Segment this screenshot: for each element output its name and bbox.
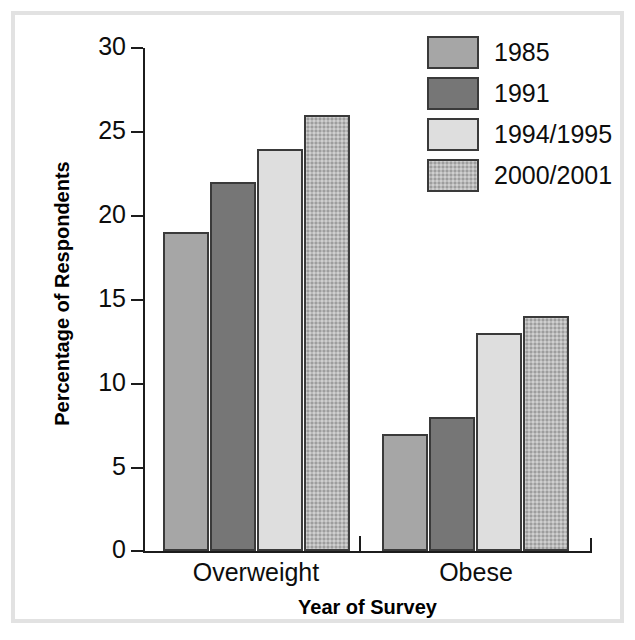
bar-obese-1985: [382, 434, 428, 551]
bar-obese-1994-1995: [476, 333, 522, 551]
bar-overweight-1985: [163, 232, 209, 551]
y-tick-15: [131, 299, 143, 301]
bar-obese-1991: [429, 417, 475, 551]
legend-swatch-1985: [427, 36, 479, 69]
legend-swatch-2000-2001: [427, 159, 479, 192]
x-axis-end-cap: [590, 538, 592, 553]
plot-area: 30 25 20 15 10 5 0 Percentage of Respond…: [0, 0, 635, 640]
legend-item-1994-1995: 1994/1995: [427, 115, 612, 153]
legend-label-1991: 1991: [494, 81, 550, 106]
y-axis-title: Percentage of Respondents: [51, 129, 74, 459]
x-axis-line: [143, 551, 592, 553]
bar-obese-2000-2001: [523, 316, 569, 551]
y-tick-30: [131, 47, 143, 49]
legend-item-1985: 1985: [427, 33, 612, 71]
x-group-label-overweight: Overweight: [156, 559, 356, 587]
figure-container: 30 25 20 15 10 5 0 Percentage of Respond…: [0, 0, 635, 640]
legend-label-2000-2001: 2000/2001: [494, 163, 612, 188]
y-axis-line: [143, 48, 145, 553]
y-tick-10: [131, 383, 143, 385]
legend-label-1994-1995: 1994/1995: [494, 122, 612, 147]
x-group-label-obese: Obese: [376, 559, 576, 587]
y-tick-25: [131, 131, 143, 133]
legend: 1985 1991 1994/1995 2000/2001: [427, 33, 612, 197]
y-tick-20: [131, 215, 143, 217]
y-tick-label-30: 30: [0, 34, 126, 59]
bar-overweight-2000-2001: [304, 115, 350, 551]
legend-item-1991: 1991: [427, 74, 612, 112]
bar-overweight-1994-1995: [257, 149, 303, 551]
y-tick-0: [131, 550, 143, 552]
legend-label-1985: 1985: [494, 40, 550, 65]
legend-swatch-1994-1995: [427, 118, 479, 151]
x-axis-group-separator-tick: [359, 536, 361, 553]
y-tick-label-0: 0: [0, 537, 126, 562]
x-axis-title: Year of Survey: [143, 596, 592, 619]
legend-item-2000-2001: 2000/2001: [427, 156, 612, 194]
bar-overweight-1991: [210, 182, 256, 551]
y-tick-5: [131, 467, 143, 469]
legend-swatch-1991: [427, 77, 479, 110]
